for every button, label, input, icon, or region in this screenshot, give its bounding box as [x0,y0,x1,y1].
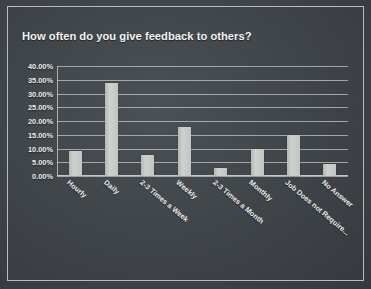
bar-series [57,66,348,176]
bar-column[interactable] [166,66,202,176]
y-axis-tick-label: 35.00% [28,75,53,84]
gridline [57,176,348,177]
bar-column[interactable] [203,66,239,176]
y-axis-tick-label: 30.00% [28,89,53,98]
x-axis-tick-label: Hourly [65,178,88,200]
x-axis-labels: HourlyDaily2-3 Times a WeekWeekly2-3 Tim… [57,178,348,248]
bar-column[interactable] [239,66,275,176]
bar-column[interactable] [93,66,129,176]
bar[interactable] [141,155,154,176]
x-axis-tick-label: Daily [102,178,121,196]
x-axis-tick-label: Monthly [247,178,274,203]
bar[interactable] [178,127,191,176]
x-axis-tick-label: No Answer [320,178,355,209]
bar-column[interactable] [57,66,93,176]
plot-area [57,66,348,176]
y-axis-tick-label: 5.00% [32,158,53,167]
y-axis-tick-label: 15.00% [28,130,53,139]
bar-column[interactable] [275,66,311,176]
bar[interactable] [323,164,336,176]
bar[interactable] [69,151,82,176]
bar[interactable] [251,149,264,176]
x-axis-tick-label: Weekly [175,178,200,201]
y-axis-labels: 40.00%35.00%30.00%25.00%20.00%15.00%10.0… [8,66,53,176]
y-axis-tick-label: 25.00% [28,103,53,112]
x-axis-tick-label: Job Does not Require... [284,178,352,237]
bar-column[interactable] [130,66,166,176]
chart-title: How often do you give feedback to others… [22,30,252,42]
y-axis-tick-label: 20.00% [28,117,53,126]
bar-column[interactable] [312,66,348,176]
bar[interactable] [287,135,300,176]
slide-canvas: How often do you give feedback to others… [0,0,371,289]
y-axis-tick-label: 40.00% [28,62,53,71]
bar[interactable] [105,83,118,176]
y-axis-tick-label: 0.00% [32,172,53,181]
y-axis-tick-label: 10.00% [28,144,53,153]
bar[interactable] [214,168,227,176]
